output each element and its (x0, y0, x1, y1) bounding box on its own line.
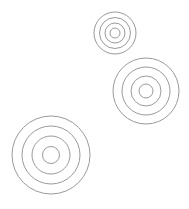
ring-circle-1 (12, 116, 90, 194)
ring-circle-4 (139, 84, 153, 98)
target-top (94, 12, 136, 54)
ring-circle-2 (22, 126, 80, 184)
target-middle (113, 58, 179, 124)
ring-circle-2 (122, 67, 170, 115)
target-bottom-left (12, 116, 90, 194)
ring-circle-3 (32, 136, 70, 174)
ring-circle-1 (94, 12, 136, 54)
ring-circle-1 (113, 58, 179, 124)
ring-circle-3 (105, 23, 125, 43)
ring-circle-3 (131, 76, 161, 106)
ring-circle-2 (100, 18, 131, 49)
ring-circle-4 (43, 147, 60, 164)
targets-layer (12, 12, 179, 194)
ring-circle-4 (110, 28, 120, 38)
concentric-circles-diagram (0, 0, 189, 209)
